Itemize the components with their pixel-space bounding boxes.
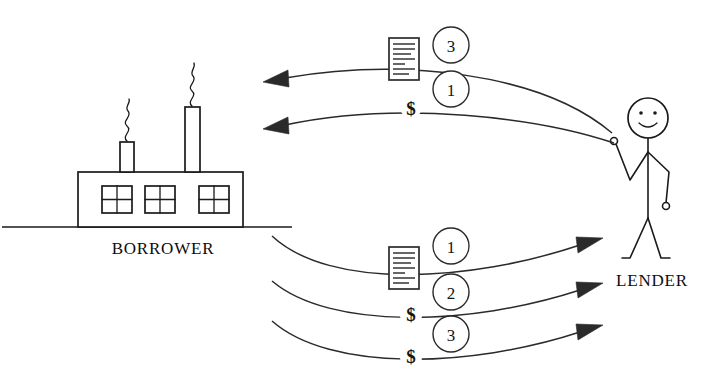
badge-label: 1 xyxy=(447,81,456,100)
arrowhead-right-icon xyxy=(576,237,603,253)
dollar-icon: $ xyxy=(406,346,416,367)
arrowhead-right-icon xyxy=(576,324,603,340)
hand-right-icon xyxy=(663,203,670,210)
document-icon[interactable] xyxy=(389,247,419,289)
flow-borrower-to-lender-money-1[interactable]: $ 2 xyxy=(272,274,603,326)
factory-smokestack-short xyxy=(120,99,134,172)
badge-label: 3 xyxy=(447,37,456,56)
arrowhead-left-icon xyxy=(263,70,289,87)
factory-smokestack-tall xyxy=(185,63,200,172)
eye-right-icon xyxy=(653,111,657,115)
borrower-factory-icon xyxy=(78,63,243,227)
badge-label: 2 xyxy=(447,284,456,303)
flow-lender-to-borrower-money[interactable]: $ 1 xyxy=(263,71,614,143)
flow-borrower-to-lender-money-2[interactable]: $ 3 xyxy=(272,316,603,368)
flow-arrow-path xyxy=(272,236,580,275)
dollar-icon: $ xyxy=(406,304,416,325)
dollar-icon: $ xyxy=(406,98,416,119)
factory-window xyxy=(145,186,175,213)
flow-arrow-path xyxy=(272,321,580,359)
borrower-label: BORROWER xyxy=(112,239,215,258)
hand-left-icon xyxy=(611,138,618,145)
badge-label: 3 xyxy=(447,326,456,345)
document-icon[interactable] xyxy=(389,38,419,80)
arrowhead-left-icon xyxy=(263,117,289,134)
arrowhead-right-icon xyxy=(576,282,603,298)
flow-arrow-path xyxy=(285,113,614,143)
lender-person-icon xyxy=(611,98,671,258)
factory-window xyxy=(102,186,132,213)
eye-left-icon xyxy=(639,111,643,115)
flow-arrow-path xyxy=(272,281,580,317)
diagram-svg: BORROWER LENDER 3 xyxy=(0,0,719,385)
factory-window xyxy=(199,186,229,213)
diagram-canvas: BORROWER LENDER 3 xyxy=(0,0,719,385)
badge-label: 1 xyxy=(447,238,456,257)
lender-label: LENDER xyxy=(616,271,688,290)
